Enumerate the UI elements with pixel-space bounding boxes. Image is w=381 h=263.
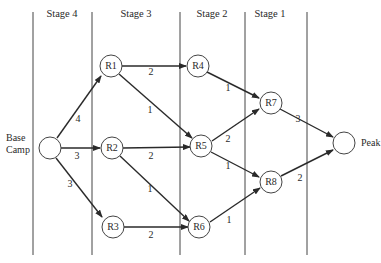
weight-r8-peak: 2	[294, 172, 306, 184]
node-label-r7: R7	[256, 97, 286, 109]
weight-r2-r6: 1	[144, 183, 156, 195]
node-label-r3: R3	[98, 221, 128, 233]
node-label-r2: R2	[97, 142, 127, 154]
node-label-r5: R5	[186, 140, 216, 152]
weight-base-r2: 3	[71, 150, 83, 162]
node-peak	[333, 132, 355, 154]
stage-label-3: Stage 3	[106, 8, 166, 19]
weight-r6-r8: 1	[223, 214, 235, 226]
weight-r4-r7: 1	[222, 82, 234, 94]
node-label-r1: R1	[96, 60, 126, 72]
peak-label: Peak	[361, 137, 380, 149]
base-camp-label: Base Camp	[6, 132, 30, 156]
edge-base-r3	[56, 158, 102, 217]
edge-r5-r7	[212, 109, 259, 141]
weight-r5-r8: 1	[222, 160, 234, 172]
stage-label-1: Stage 1	[240, 8, 300, 19]
weight-base-r3: 3	[64, 178, 76, 190]
stage-label-4: Stage 4	[32, 8, 92, 19]
weight-r1-r4: 2	[145, 66, 157, 78]
node-label-r6: R6	[184, 221, 214, 233]
base-camp-label-line1: Base	[6, 132, 30, 144]
base-camp-label-line2: Camp	[6, 144, 30, 156]
weight-base-r1: 4	[72, 113, 84, 125]
edge-base-r1	[57, 76, 101, 138]
weight-r2-r5: 2	[145, 150, 157, 162]
weight-r1-r5: 1	[144, 104, 156, 116]
edge-r6-r8	[210, 188, 260, 222]
node-base-camp	[39, 137, 61, 159]
stage-dividers	[33, 12, 307, 255]
weight-r3-r6: 2	[145, 229, 157, 241]
stage-label-2: Stage 2	[182, 8, 242, 19]
weight-r5-r7: 2	[222, 133, 234, 145]
node-label-r4: R4	[183, 60, 213, 72]
edge-r2-r5	[123, 147, 190, 148]
edge-r5-r8	[211, 152, 259, 177]
node-label-r8: R8	[256, 176, 286, 188]
weight-r7-peak: 3	[292, 113, 304, 125]
